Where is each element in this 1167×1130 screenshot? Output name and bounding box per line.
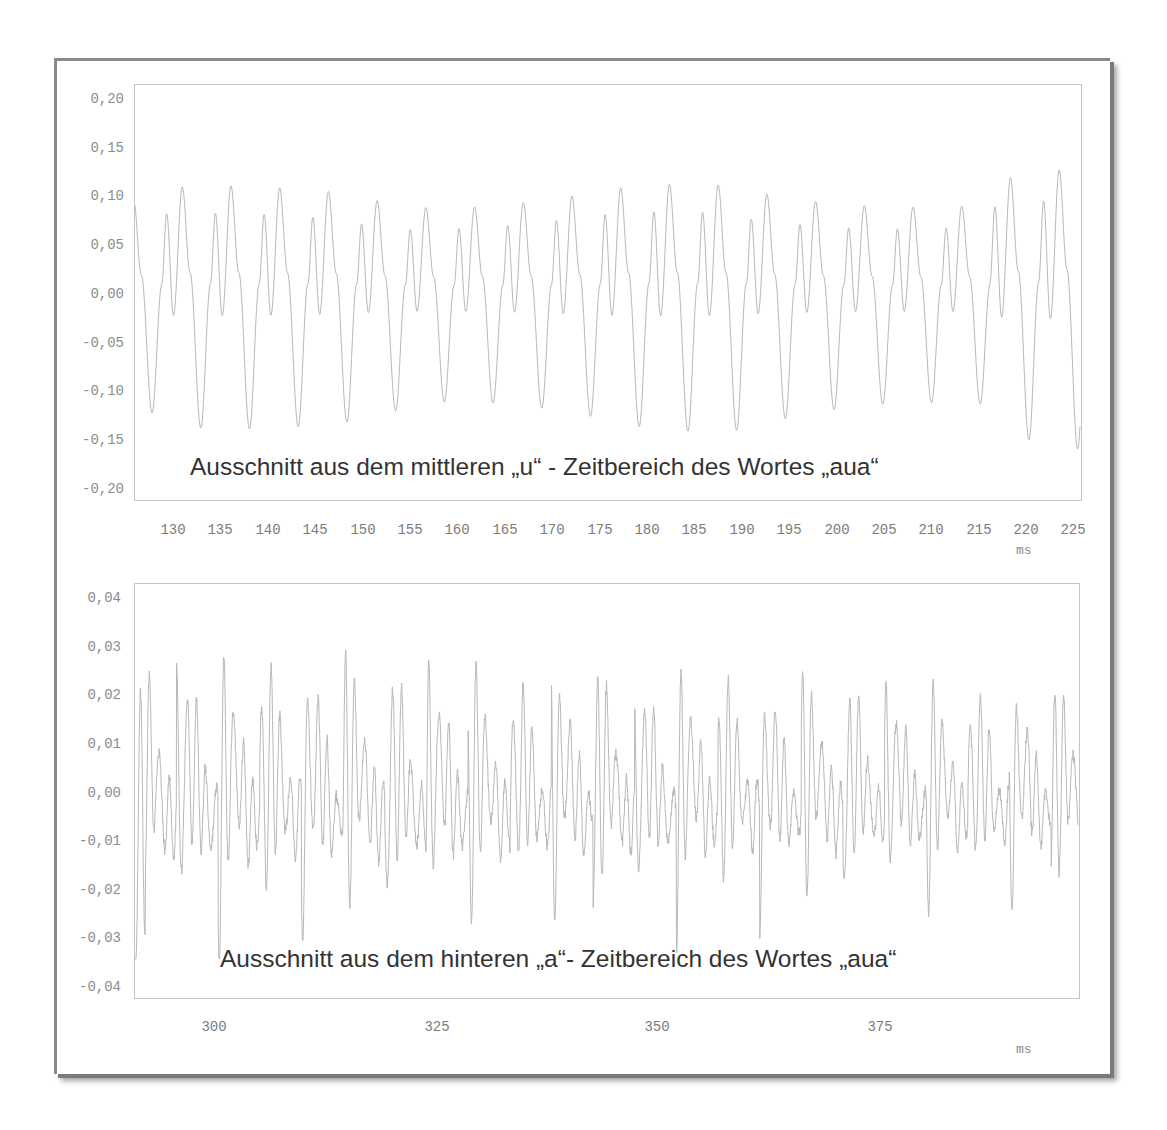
bottom-y-tick: -0,04: [51, 980, 121, 994]
bottom-chart-caption: Ausschnitt aus dem hinteren „a“- Zeitber…: [220, 946, 896, 972]
bottom-y-tick: -0,02: [51, 883, 121, 897]
bottom-y-tick: 0,02: [51, 688, 121, 702]
bottom-y-tick: 0,00: [51, 786, 121, 800]
bottom-y-tick: 0,04: [51, 591, 121, 605]
bottom-x-unit-label: ms: [1016, 1043, 1032, 1056]
bottom-y-tick: -0,03: [51, 931, 121, 945]
bottom-x-tick: 300: [201, 1020, 226, 1034]
waveform-path: [135, 650, 1078, 959]
bottom-x-tick: 325: [424, 1020, 449, 1034]
bottom-y-tick: 0,01: [51, 737, 121, 751]
bottom-x-tick: 350: [644, 1020, 669, 1034]
bottom-x-tick: 375: [867, 1020, 892, 1034]
bottom-y-tick: -0,01: [51, 834, 121, 848]
bottom-y-tick: 0,03: [51, 640, 121, 654]
